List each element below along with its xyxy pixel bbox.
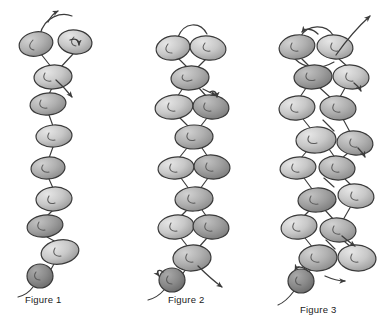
cell [175, 124, 214, 149]
cell [26, 213, 65, 240]
cell [29, 91, 67, 117]
figure-3-group [277, 16, 377, 305]
connector-head-arc [301, 27, 333, 36]
connector [304, 178, 312, 189]
cell [154, 92, 195, 121]
caption-figure-2: Figure 2 [168, 294, 204, 305]
figure-board: Figure 1 Figure 2 Figure 3 [0, 0, 390, 328]
cell [319, 216, 357, 243]
cell [295, 126, 336, 154]
cell [337, 182, 375, 210]
figure-2-cells [154, 33, 231, 292]
tail-filament [148, 290, 164, 300]
cell [336, 129, 374, 157]
cell [17, 29, 55, 60]
growth-arrow-bottom [325, 276, 345, 281]
cell [35, 124, 72, 148]
cell [297, 187, 336, 213]
cell [30, 156, 66, 181]
cell [337, 243, 377, 272]
figure-1-cells [17, 28, 94, 288]
cell [154, 33, 192, 63]
cell [280, 213, 319, 242]
cell [35, 186, 73, 212]
cell [277, 32, 317, 62]
cell [33, 64, 73, 91]
caption-figure-3: Figure 3 [300, 304, 336, 315]
figure-1-group [17, 11, 94, 297]
cell [279, 155, 317, 181]
cell [192, 93, 230, 121]
cell [316, 33, 354, 61]
cell [318, 155, 356, 181]
terminal-cell [27, 264, 53, 288]
cell [170, 65, 210, 92]
cell [332, 63, 370, 90]
cell [172, 244, 212, 273]
connector [343, 119, 350, 132]
cell [39, 237, 81, 267]
connector-head-arc [178, 25, 207, 37]
figure-3-cells [277, 32, 377, 293]
three-figure-diagram: Figure 1 Figure 2 Figure 3 [0, 0, 390, 328]
connector [49, 115, 53, 126]
tail-filament [278, 291, 294, 305]
figure-2-group [148, 25, 231, 300]
cell [56, 28, 93, 56]
terminal-cell [288, 269, 314, 293]
cell [319, 94, 357, 121]
cell [157, 213, 196, 241]
growth-arrow-top [48, 11, 58, 22]
cell [157, 155, 195, 181]
caption-figure-1: Figure 1 [25, 294, 61, 305]
cell [193, 153, 231, 180]
cell [278, 94, 317, 122]
cell [189, 34, 228, 63]
growth-arrow-bottom [198, 266, 222, 287]
cell [192, 213, 230, 241]
cell [174, 186, 213, 212]
cell [293, 64, 333, 91]
connector [343, 206, 351, 220]
